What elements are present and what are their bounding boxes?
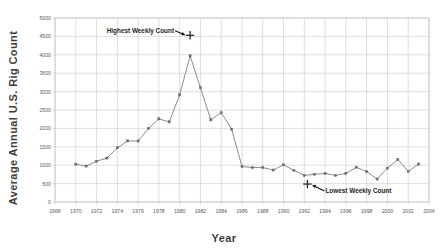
y-tick-label: 1500: [39, 144, 51, 150]
data-point: [334, 174, 336, 176]
data-point: [262, 166, 264, 168]
data-point: [210, 119, 212, 121]
data-point: [303, 174, 305, 176]
x-tick-label: 1980: [174, 208, 186, 214]
x-tick-label: 1974: [112, 208, 124, 214]
data-point: [158, 118, 160, 120]
data-point: [251, 166, 253, 168]
data-point: [106, 157, 108, 159]
data-point: [282, 164, 284, 166]
x-tick-label: 2002: [402, 208, 414, 214]
x-tick-label: 1982: [195, 208, 207, 214]
data-point: [147, 127, 149, 129]
x-tick-label: 1968: [49, 208, 61, 214]
y-tick-label: 2500: [39, 107, 51, 113]
rig-count-chart: Average Annual U.S. Rig Count Year 05001…: [0, 0, 444, 249]
x-tick-label: 1992: [299, 208, 311, 214]
annotation-label: Lowest Weekly Count: [325, 187, 392, 195]
y-tick-label: 4500: [39, 33, 51, 39]
data-point: [324, 172, 326, 174]
chart-canvas: Average Annual U.S. Rig Count Year 05001…: [0, 0, 444, 249]
x-tick-label: 1984: [215, 208, 227, 214]
data-point: [386, 167, 388, 169]
y-tick-label: 4000: [39, 52, 51, 58]
data-point: [293, 169, 295, 171]
data-point: [179, 94, 181, 96]
data-point: [199, 87, 201, 89]
data-point: [241, 165, 243, 167]
data-point: [314, 173, 316, 175]
x-tick-label: 1970: [70, 208, 82, 214]
y-tick-label: 3500: [39, 70, 51, 76]
data-point: [189, 55, 191, 57]
x-tick-label: 1988: [257, 208, 269, 214]
x-axis-title: Year: [212, 232, 237, 244]
data-point: [168, 121, 170, 123]
y-tick-label: 3000: [39, 89, 51, 95]
annotation-label: Highest Weekly Count: [107, 27, 175, 35]
data-point: [418, 163, 420, 165]
y-axis-title: Average Annual U.S. Rig Count: [7, 31, 19, 206]
x-tick-label: 1972: [91, 208, 103, 214]
x-tick-label: 1994: [319, 208, 331, 214]
y-tick-label: 1000: [39, 162, 51, 168]
x-tick-label: 1996: [340, 208, 352, 214]
data-point: [407, 170, 409, 172]
y-tick-label: 0: [48, 199, 51, 205]
x-tick-label: 2004: [423, 208, 435, 214]
data-point: [272, 169, 274, 171]
data-point: [231, 128, 233, 130]
data-point: [116, 147, 118, 149]
x-tick-label: 1990: [278, 208, 290, 214]
data-point: [366, 170, 368, 172]
x-tick-label: 1978: [153, 208, 165, 214]
data-point: [85, 165, 87, 167]
data-point: [137, 140, 139, 142]
data-point: [75, 163, 77, 165]
data-point: [220, 112, 222, 114]
data-point: [95, 160, 97, 162]
y-tick-label: 5000: [39, 15, 51, 21]
data-point: [345, 172, 347, 174]
data-point: [376, 178, 378, 180]
x-tick-label: 1998: [361, 208, 373, 214]
x-tick-label: 1986: [236, 208, 248, 214]
y-tick-label: 500: [42, 181, 51, 187]
x-tick-label: 1976: [132, 208, 144, 214]
data-point: [355, 166, 357, 168]
data-point: [397, 158, 399, 160]
x-tick-label: 2000: [382, 208, 394, 214]
data-point: [127, 140, 129, 142]
y-tick-label: 2000: [39, 125, 51, 131]
